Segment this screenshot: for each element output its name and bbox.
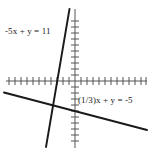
graph-figure: -5x + y = 11 (1/3)x + y = -5 [0,0,149,154]
coordinate-graph [0,0,149,154]
equation-label-line2: (1/3)x + y = -5 [78,96,133,105]
equation-label-line1: -5x + y = 11 [5,27,51,36]
